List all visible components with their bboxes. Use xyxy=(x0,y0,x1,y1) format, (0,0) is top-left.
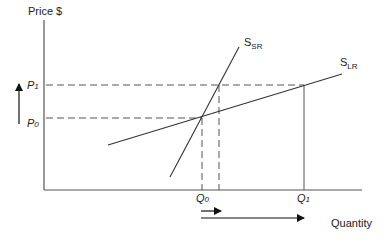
y-axis-label: Price $ xyxy=(28,5,62,17)
slr-label: SLR xyxy=(340,56,358,71)
ssr-label: SSR xyxy=(244,36,263,51)
short-run-supply-curve xyxy=(170,47,239,177)
q1-label: Q1 xyxy=(297,192,310,204)
supply-diagram: Price $ Quantity SSR SLR P1 P0 Q0 Q1 xyxy=(0,0,388,244)
p0-label: P0 xyxy=(27,117,39,129)
q0-label: Q0 xyxy=(196,192,210,204)
p1-label: P1 xyxy=(27,79,39,91)
x-axis-label: Quantity xyxy=(331,217,372,229)
